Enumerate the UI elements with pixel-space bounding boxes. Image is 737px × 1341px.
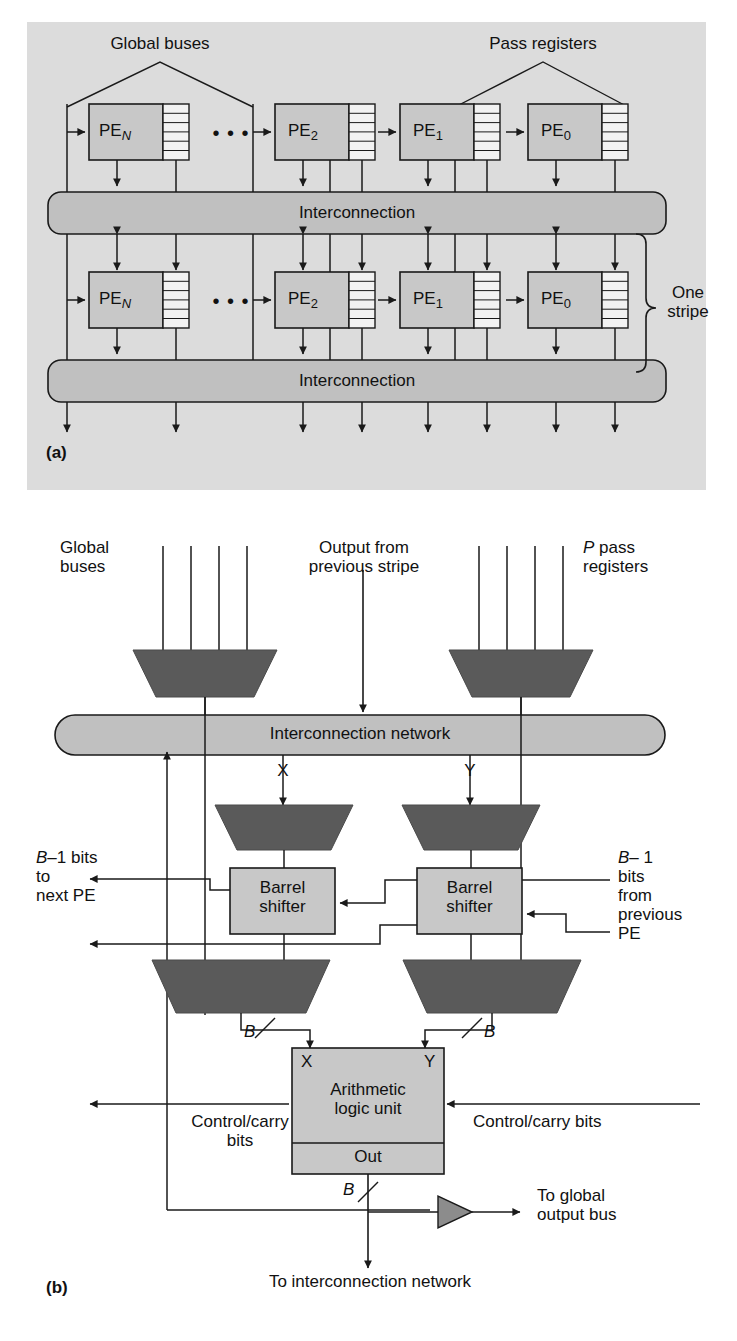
figure-vector-layer — [0, 0, 737, 1341]
x-signal-label: X — [263, 761, 303, 780]
alu-y-port-label: Y — [424, 1052, 435, 1071]
pe-label-row1-0: PEN — [99, 121, 131, 144]
bus-width-slash-right — [462, 1018, 482, 1038]
interconnection-label-1: Interconnection — [257, 203, 457, 222]
output-prev-stripe-label: Output from previous stripe — [274, 538, 454, 576]
mux-global-buses — [133, 650, 277, 697]
mux-x-upper — [215, 805, 353, 850]
mux-y-upper — [402, 805, 540, 850]
y-signal-label: Y — [450, 761, 490, 780]
mux-x-lower — [152, 960, 330, 1013]
bus-width-slash-left — [255, 1018, 275, 1038]
pe-subscript: 1 — [436, 296, 443, 311]
mux-y-lower — [403, 960, 581, 1013]
b-minus-1-next-pe-label: B–1 bits to next PE — [36, 848, 166, 905]
panel-a-global-buses-label: Global buses — [80, 34, 240, 53]
panel-a-ellipsis-row2: • • • — [196, 290, 266, 312]
to-global-output-bus-label: To global output bus — [537, 1186, 677, 1224]
out-bus-width-label: B — [343, 1180, 354, 1199]
barrel-shifter-left-label: Barrel shifter — [235, 878, 330, 916]
output-buffer-icon — [438, 1196, 472, 1228]
pe-label-row2-3: PE0 — [541, 289, 571, 312]
panel-b-key: (b) — [46, 1278, 68, 1298]
alu-name-label: Arithmetic logic unit — [292, 1080, 444, 1118]
interconnection-label-2: Interconnection — [257, 371, 457, 390]
b-minus-1-prev-pe-label: B– 1 bits from previous PE — [618, 848, 728, 943]
mux-pass-registers — [449, 650, 593, 697]
panel-a-pass-registers-label: Pass registers — [463, 34, 623, 53]
pe-subscript: 2 — [311, 296, 318, 311]
panel-a-key: (a) — [46, 443, 67, 463]
panel-a-row-2 — [67, 272, 628, 360]
pass-registers-leader — [455, 62, 628, 107]
pe-subscript: 1 — [436, 128, 443, 143]
pe-label-row1-2: PE1 — [413, 121, 443, 144]
pass-register-input-lines — [479, 546, 563, 650]
b-minus-1-from-prev-lower — [527, 914, 610, 932]
interconnection-network-label: Interconnection network — [260, 724, 460, 743]
pe-label-row2-2: PE1 — [413, 289, 443, 312]
alu-x-port-label: X — [301, 1052, 312, 1071]
pe-label-row1-1: PE2 — [288, 121, 318, 144]
to-interconnection-network-label: To interconnection network — [215, 1272, 525, 1291]
bus-width-left-label: B — [244, 1022, 255, 1041]
pass-registers-label-b: P pass registers — [583, 538, 648, 576]
barrel-shifter-right-label: Barrel shifter — [422, 878, 517, 916]
pe-subscript: 0 — [564, 296, 571, 311]
pe-subscript: N — [122, 128, 131, 143]
panel-b-global-buses-label: Global buses — [60, 538, 170, 576]
pe-label-row2-0: PEN — [99, 289, 131, 312]
pe-subscript: N — [122, 296, 131, 311]
one-stripe-label: One stripe — [653, 283, 723, 321]
panel-a-ellipsis-row1: • • • — [196, 122, 266, 144]
bshift-right-to-left — [340, 880, 417, 903]
alu-out-port-label: Out — [292, 1147, 444, 1166]
control-carry-right-label: Control/carry bits — [473, 1112, 601, 1131]
pass-count-symbol: P — [583, 538, 594, 557]
global-bus-input-lines — [163, 546, 247, 650]
pe-subscript: 0 — [564, 128, 571, 143]
panel-a-outputs — [67, 402, 615, 432]
panel-a-row-1 — [67, 104, 628, 192]
panel-a-interbar-links-1 — [117, 234, 615, 270]
bus-width-right-label: B — [484, 1022, 495, 1041]
pe-label-row1-3: PE0 — [541, 121, 571, 144]
pe-subscript: 2 — [311, 128, 318, 143]
global-buses-leader — [67, 62, 253, 107]
pe-label-row2-1: PE2 — [288, 289, 318, 312]
control-carry-left-label: Control/carry bits — [175, 1112, 305, 1150]
